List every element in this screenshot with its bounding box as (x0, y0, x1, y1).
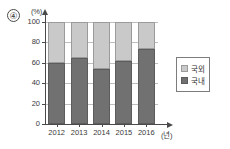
x-axis-tick (57, 124, 58, 127)
chart-legend: 국외 국내 (176, 57, 210, 92)
y-axis-tick-label: 40 (32, 78, 40, 87)
y-axis-tick-label: 20 (32, 99, 40, 108)
bar-segment-overseas (115, 22, 132, 61)
y-axis-tick-label: 80 (32, 37, 40, 46)
x-axis-unit-label: (년) (161, 129, 172, 140)
stacked-bar (48, 22, 65, 124)
bar-segment-overseas (48, 22, 65, 63)
stacked-bar (93, 22, 110, 124)
bar-segment-domestic (71, 58, 88, 124)
y-axis-tick-label: 60 (32, 58, 40, 67)
y-axis-tick-label: 100 (27, 17, 40, 26)
dark-gray-swatch-icon (181, 77, 188, 84)
y-axis-tick (42, 124, 46, 125)
y-axis-tick (42, 63, 46, 64)
y-axis-tick (42, 22, 46, 23)
x-axis-tick-label: 2014 (90, 128, 114, 137)
x-axis-tick-label: 2015 (112, 128, 136, 137)
bar-segment-domestic (48, 63, 65, 124)
bar-segment-overseas (93, 22, 110, 69)
x-axis-arrow-icon (167, 122, 173, 128)
bar-segment-overseas (71, 22, 88, 58)
bar-segment-domestic (138, 49, 155, 124)
x-axis-tick-label: 2013 (67, 128, 91, 137)
legend-label-overseas: 국외 (191, 63, 205, 74)
bar-segment-overseas (138, 22, 155, 49)
y-axis-tick (42, 42, 46, 43)
stacked-bar (115, 22, 132, 124)
chart-figure: ④ (%) 020406080100 (년) 국외 국내 20122013201… (0, 0, 230, 149)
bar-segment-domestic (115, 61, 132, 124)
y-axis-unit-label: (%) (31, 7, 42, 16)
y-axis-tick-label: 0 (36, 119, 40, 128)
legend-item-overseas: 국외 (181, 63, 205, 74)
x-axis-tick-label: 2012 (45, 128, 69, 137)
legend-item-domestic: 국내 (181, 75, 205, 86)
bar-segment-domestic (93, 69, 110, 124)
question-number-marker: ④ (7, 9, 20, 22)
x-axis-tick (79, 124, 80, 127)
x-axis-tick (124, 124, 125, 127)
stacked-bar (71, 22, 88, 124)
plot-area: 020406080100 (46, 22, 158, 124)
y-axis-tick (42, 104, 46, 105)
legend-label-domestic: 국내 (191, 75, 205, 86)
y-axis-tick (42, 83, 46, 84)
x-axis-tick-label: 2016 (134, 128, 158, 137)
x-axis-tick (102, 124, 103, 127)
light-gray-swatch-icon (181, 65, 188, 72)
x-axis-tick (146, 124, 147, 127)
stacked-bar (138, 22, 155, 124)
